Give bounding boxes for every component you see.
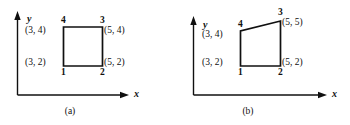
coord-label-5-4: (5, 4)	[104, 26, 125, 36]
x-axis-label: x	[134, 89, 139, 99]
coord-label-5-2: (5, 2)	[282, 58, 303, 68]
vertex-number-4: 4	[238, 20, 243, 30]
vertex-number-4: 4	[61, 16, 66, 26]
coord-label-3-2: (3, 2)	[202, 58, 223, 68]
x-axis-b	[194, 92, 328, 98]
x-axis-label: x	[332, 89, 337, 99]
coord-label-5-2: (5, 2)	[104, 58, 125, 68]
y-axis-b	[190, 16, 196, 95]
vertex-number-2: 2	[100, 68, 105, 78]
x-axis-a	[18, 92, 130, 98]
square-shape-a	[64, 27, 103, 66]
vertex-number-2: 2	[278, 68, 283, 78]
coord-label-5-5: (5, 5)	[282, 18, 303, 28]
vertex-number-1: 1	[61, 68, 66, 78]
coord-label-3-2: (3, 2)	[25, 58, 46, 68]
figure-container: y x 4 3 1 2 (3, 4) (5, 4) (3, 2) (5, 2) …	[0, 0, 350, 125]
y-axis-label: y	[27, 14, 31, 24]
panel-caption-b: (b)	[228, 107, 268, 117]
diagram-panel-a: y x 4 3 1 2 (3, 4) (5, 4) (3, 2) (5, 2) …	[0, 0, 175, 125]
trapezoid-shape-b	[241, 21, 281, 66]
panel-caption-a: (a)	[50, 107, 90, 117]
vertex-number-1: 1	[238, 68, 243, 78]
y-axis-a	[14, 11, 20, 95]
diagram-panel-b: y x 4 3 1 2 (3, 4) (5, 5) (3, 2) (5, 2) …	[175, 0, 350, 125]
coord-label-3-4: (3, 4)	[202, 30, 223, 40]
coord-label-3-4: (3, 4)	[25, 26, 46, 36]
